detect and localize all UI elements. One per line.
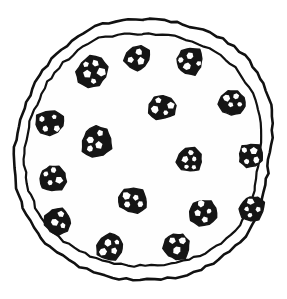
granule xyxy=(40,166,66,190)
figure-root: Cell cross-section line drawing Hand-dra… xyxy=(0,0,287,299)
granule xyxy=(190,200,217,226)
granule xyxy=(240,145,263,168)
granule xyxy=(149,96,176,120)
cell-cross-section-drawing xyxy=(0,0,287,299)
